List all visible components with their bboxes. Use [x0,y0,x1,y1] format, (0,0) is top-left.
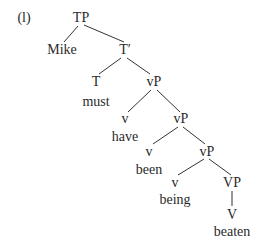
word-have: have [112,130,138,144]
node-vp-1: vP [147,75,162,89]
word-being: being [159,193,190,207]
example-label: (l) [17,11,30,25]
node-vp-2: vP [174,112,189,126]
node-big-vp: VP [223,176,241,190]
node-t-bar: T′ [119,43,131,57]
node-big-v: V [227,208,237,222]
tree-branches [0,0,262,251]
node-mike: Mike [47,43,77,57]
syntax-tree: (l) TP Mike T′ T must vP v have vP v bee… [0,0,262,251]
word-must: must [82,95,109,109]
word-beaten: beaten [214,225,251,239]
word-been: been [136,163,162,177]
node-vp-3: vP [200,145,215,159]
node-v-2: v [146,145,153,159]
node-v-3: v [172,176,179,190]
node-t: T [92,75,101,89]
node-v-1: v [122,112,129,126]
node-tp: TP [73,11,89,25]
